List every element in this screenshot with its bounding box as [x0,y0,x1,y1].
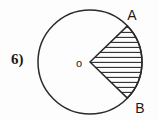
figure-container: 6) o A B [0,0,158,121]
center-label: o [76,57,82,69]
point-a-label: A [127,7,137,23]
circle-sector-diagram: o A B [0,0,158,121]
point-b-label: B [135,100,144,116]
